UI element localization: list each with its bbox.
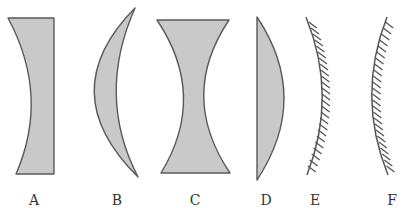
plano-convex-lens-shape bbox=[257, 17, 284, 180]
mirror-hatching bbox=[373, 22, 395, 172]
label-d: D bbox=[260, 192, 271, 208]
biconcave-lens-shape bbox=[157, 20, 230, 173]
label-f: F bbox=[387, 192, 397, 208]
label-e: E bbox=[310, 192, 320, 208]
element-a: A bbox=[8, 18, 54, 208]
mirror-hatching bbox=[308, 22, 330, 172]
label-c: C bbox=[190, 192, 201, 208]
label-b: B bbox=[112, 192, 122, 208]
meniscus-lens-shape bbox=[94, 8, 138, 177]
element-f: F bbox=[372, 17, 397, 208]
element-c: C bbox=[157, 20, 230, 208]
element-b: B bbox=[94, 8, 138, 208]
element-e: E bbox=[306, 17, 330, 208]
label-a: A bbox=[28, 192, 40, 208]
optics-diagram: A B C D bbox=[0, 0, 414, 217]
plano-concave-lens-shape bbox=[8, 18, 54, 174]
concave-mirror-surface bbox=[306, 17, 322, 175]
element-d: D bbox=[257, 17, 284, 208]
